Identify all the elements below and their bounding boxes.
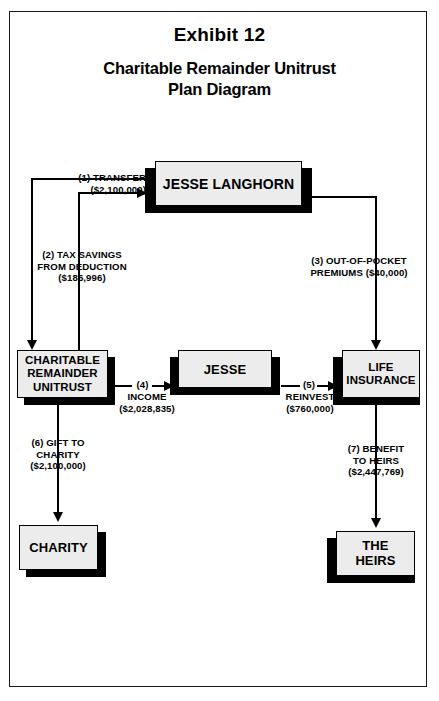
flow-2-label: (2) TAX SAVINGS FROM DEDUCTION ($186,996… <box>20 249 144 284</box>
flow-4-label-detail: INCOME ($2,028,835) <box>104 391 190 414</box>
node-jesse[interactable]: JESSE <box>178 350 272 388</box>
flow-3-label: (3) OUT-OF-POCKET PREMIUMS ($40,000) <box>296 255 422 278</box>
flow-5-arrowhead <box>328 381 338 391</box>
flow-5-label-detail: REINVEST ($760,000) <box>270 391 350 414</box>
flow-1-arrowhead <box>27 340 37 350</box>
flow-6-arrowhead <box>53 512 63 522</box>
flow-4-arrowhead <box>164 381 174 391</box>
node-jesse-langhorn[interactable]: JESSE LANGHORN <box>155 161 302 206</box>
flow-7-label: (7) BENEFIT TO HEIRS ($2,447,769) <box>322 443 430 478</box>
flow-4-segment-horizontal <box>115 385 132 387</box>
node-charitable-remainder-unitrust[interactable]: CHARITABLE REMAINDER UNITRUST <box>17 350 108 398</box>
flow-5-label-step: (5) <box>299 379 319 391</box>
flow-7-arrowhead <box>371 518 381 528</box>
node-life-insurance[interactable]: LIFE INSURANCE <box>342 350 420 398</box>
flow-3-arrowhead <box>371 340 381 350</box>
flow-5-segment-horizontal <box>281 385 300 387</box>
page-border-frame <box>9 11 427 687</box>
flow-4-label-step: (4) <box>132 379 153 391</box>
node-the-heirs[interactable]: THE HEIRS <box>336 531 415 576</box>
flow-1-label: (1) TRANSFER ($2,100,000) <box>38 172 146 195</box>
plan-diagram-title: Charitable Remainder Unitrust Plan Diagr… <box>0 58 439 100</box>
exhibit-page: Exhibit 12 Charitable Remainder Unitrust… <box>0 0 439 701</box>
flow-3-segment-horizontal <box>302 196 376 198</box>
node-charity[interactable]: CHARITY <box>19 525 98 570</box>
exhibit-title: Exhibit 12 <box>0 24 439 46</box>
flow-6-label: (6) GIFT TO CHARITY ($2,100,000) <box>2 437 114 472</box>
